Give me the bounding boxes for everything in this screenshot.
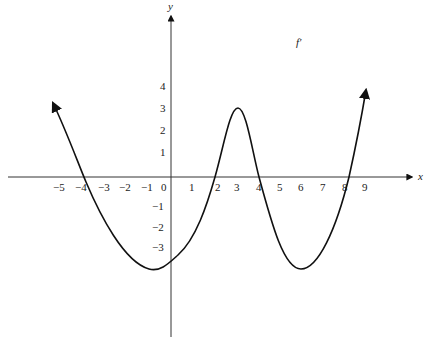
svg-text:−3: −3 [152,241,164,253]
y-tick-labels: 1 2 3 4 −1 −2 −3 [152,80,166,253]
svg-text:2: 2 [160,124,166,136]
svg-text:−5: −5 [53,181,65,193]
svg-text:0: 0 [161,181,167,193]
svg-text:9: 9 [362,181,368,193]
svg-text:7: 7 [320,181,326,193]
x-axis-label: x [417,170,423,182]
y-axis-label: y [167,0,173,12]
svg-text:1: 1 [189,181,195,193]
svg-text:−2: −2 [119,181,131,193]
svg-text:5: 5 [277,181,283,193]
function-label: f′ [296,36,302,48]
svg-text:4: 4 [160,80,166,92]
svg-text:−1: −1 [152,200,164,212]
svg-text:3: 3 [234,181,240,193]
svg-text:−2: −2 [152,221,164,233]
svg-text:−4: −4 [75,181,87,193]
chart: x y f′ −5 −4 −3 −2 −1 0 1 2 3 4 5 6 7 8 … [0,0,429,343]
f-prime-curve [53,90,366,270]
svg-text:6: 6 [298,181,304,193]
svg-text:−3: −3 [98,181,110,193]
svg-text:2: 2 [215,181,221,193]
svg-text:−1: −1 [141,181,153,193]
svg-text:1: 1 [160,146,166,158]
svg-text:3: 3 [160,102,166,114]
